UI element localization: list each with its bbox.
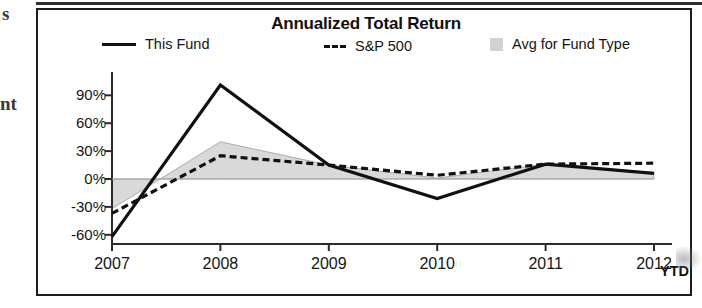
x-axis-tick-label: 2011 <box>511 256 581 272</box>
page-margin-mark-middle: nt <box>0 94 17 113</box>
annualized-total-return-chart-panel: Annualized Total Return This Fund S&P 50… <box>36 8 692 296</box>
x-axis-tick-label: 2007 <box>77 256 147 272</box>
x-axis-tick-label: 2008 <box>185 256 255 272</box>
x-axis-ytd-label: YTD <box>660 263 689 279</box>
scanned-page: s nt Annualized Total Return This Fund S… <box>0 0 702 308</box>
x-axis-tick-labels: 200720082009201020112012 <box>38 10 694 298</box>
x-axis-tick-label: 2009 <box>294 256 364 272</box>
x-axis-tick-label: 2010 <box>402 256 472 272</box>
page-top-rule <box>36 2 702 5</box>
page-margin-mark-top: s <box>2 4 9 23</box>
